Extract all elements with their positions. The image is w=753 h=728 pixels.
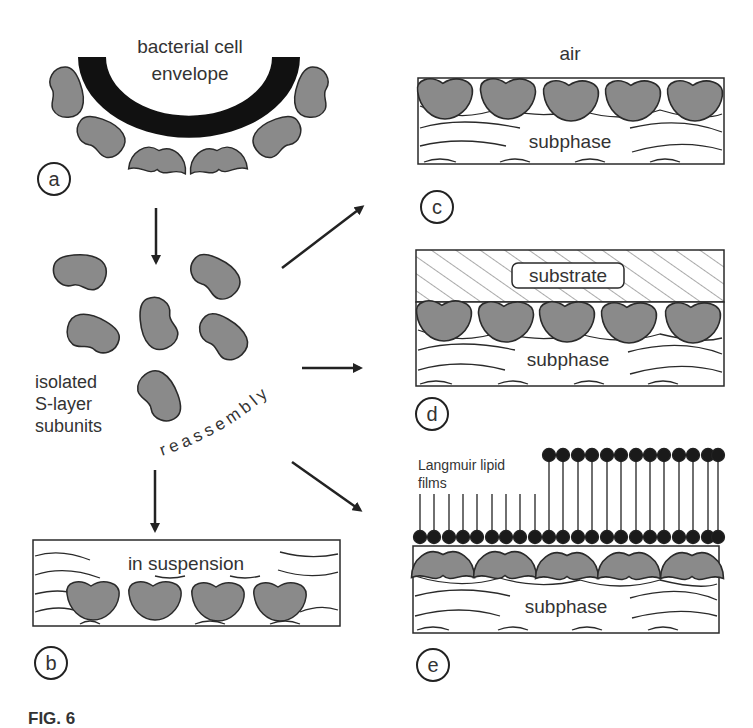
panel-d: substrate subphase d [416, 250, 724, 430]
panel-b: in suspension b [33, 540, 340, 679]
panel-a-title-line1: bacterial cell [137, 36, 243, 57]
panel-a-letter: a [38, 163, 70, 195]
panel-a: bacterial cell envelope a [38, 36, 338, 195]
lipid-label-line1: Langmuir lipid [418, 457, 505, 473]
svg-text:d: d [426, 403, 437, 425]
svg-text:c: c [432, 196, 442, 218]
figure-caption-clipped: FIG. 6 [28, 709, 75, 728]
svg-text:b: b [45, 652, 56, 674]
isolated-label-line3: subunits [35, 416, 102, 436]
short-lipid-film [414, 494, 542, 544]
panel-e-subphase-label: subphase [525, 596, 607, 617]
isolated-label-line2: S-layer [35, 394, 92, 414]
panel-c-air-label: air [559, 43, 581, 64]
substrate-label: substrate [529, 265, 607, 286]
panel-d-letter: d [416, 398, 448, 430]
panel-d-subphase-label: subphase [527, 349, 609, 370]
panel-c-letter: c [421, 191, 453, 223]
panel-a-title-line2: envelope [151, 63, 228, 84]
panel-e-letter: e [417, 649, 449, 681]
lipid-label-line2: films [418, 475, 447, 491]
isolated-label-line1: isolated [35, 372, 97, 392]
long-lipid-film [543, 449, 725, 544]
arrow-to-c-icon [282, 207, 362, 268]
panel-b-label: in suspension [128, 553, 244, 574]
panel-c-subphase-label: subphase [529, 131, 611, 152]
arrow-to-e-icon [292, 462, 360, 510]
panel-e: Langmuir lipid films [412, 449, 725, 682]
panel-c: air subphase c [417, 43, 724, 223]
panel-b-letter: b [35, 647, 67, 679]
svg-text:e: e [427, 654, 438, 676]
svg-text:a: a [48, 168, 60, 190]
